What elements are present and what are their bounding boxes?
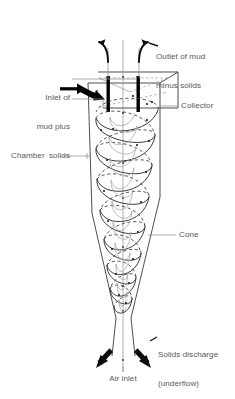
inlet-label-line2: mud plus [2, 122, 70, 132]
underflow-left-wall [112, 318, 116, 356]
overflow-tubes [108, 48, 139, 78]
inlet-label-line1: Inlet of [2, 93, 70, 103]
arrow-down-right-icon [76, 85, 106, 101]
discharge-arrows [96, 348, 151, 368]
chamber-left-wall [88, 83, 92, 213]
underflow-right-wall [131, 318, 135, 356]
arrow-down-right-icon [134, 348, 151, 368]
solids-discharge-line1: Solids discharge [158, 350, 234, 360]
cone-right-wall [131, 197, 160, 318]
leader-solids [150, 337, 157, 341]
cone-label: Cone [179, 230, 219, 240]
solids-discharge-label: Solids discharge (underflow) [158, 331, 234, 399]
air-inlet-label: Air inlet [94, 374, 152, 384]
outlet-arrow-heads [99, 39, 148, 45]
outlet-arrows [99, 42, 148, 62]
hydrocyclone-diagram: Outlet of mud minus solids Inlet of mud … [0, 0, 235, 399]
solids-discharge-line2: (underflow) [158, 379, 234, 389]
outlet-label-line1: Outlet of mud [156, 52, 234, 62]
chamber-label: Chamber [11, 151, 61, 161]
leader-inlet-bottom [72, 99, 103, 108]
vortex-finder-left-bar [107, 76, 110, 112]
outlet-label-line2: minus solids [156, 81, 234, 91]
collector-label: Collector [181, 101, 235, 111]
outlet-label: Outlet of mud minus solids [156, 33, 234, 110]
vortex-finder-right-bar [137, 76, 140, 112]
inlet-label: Inlet of mud plus solids [2, 74, 70, 180]
arrow-down-left-icon [96, 348, 113, 368]
helical-flow-path-rear [96, 98, 158, 307]
